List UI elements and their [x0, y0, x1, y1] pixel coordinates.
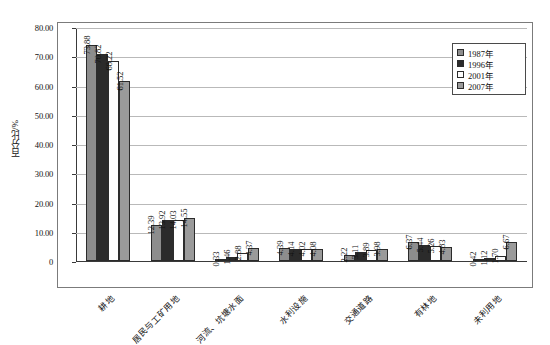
bar-value-label: 2.22 [340, 247, 349, 262]
bar-group: 2.223.113.893.98 [334, 27, 398, 261]
bar: 6.67 [506, 242, 517, 262]
bar: 61.52 [119, 81, 130, 261]
bar-value-label: 5.44 [416, 238, 425, 253]
bar-value-label: 3.98 [373, 242, 382, 257]
bar-value-label: 4.83 [438, 239, 447, 254]
bar-group-bars: 4.394.144.024.08 [269, 27, 333, 261]
bar-value-label: 1.46 [223, 249, 232, 264]
bar-group: 12.3913.9214.0314.55 [140, 27, 204, 261]
bar-group-bars: 0.331.462.884.37 [205, 27, 269, 261]
bar: 70.82 [97, 54, 108, 261]
y-axis-title-wrap: 百分比/% [8, 120, 21, 157]
y-axis-tick-label: 60.00 [35, 82, 53, 92]
x-axis-category-slot: 交通道路 [334, 288, 398, 322]
legend-swatch [457, 82, 464, 89]
x-axis-category-label: 水利设施 [276, 292, 310, 326]
x-axis-category-label: 交通道路 [340, 292, 374, 326]
y-axis-title: 百分比/% [8, 120, 21, 157]
bar-value-label: 0.42 [469, 252, 478, 267]
legend-swatch [457, 49, 464, 56]
bar: 73.88 [86, 45, 97, 261]
legend-swatch [457, 71, 464, 78]
y-axis-tick [72, 262, 76, 263]
bar-value-label: 68.22 [105, 52, 114, 71]
bar-value-label: 61.52 [116, 72, 125, 91]
bar-group: 73.8870.8268.2261.52 [76, 27, 140, 261]
x-axis-category-label: 未利用地 [469, 292, 503, 326]
bar-value-label: 3.89 [362, 242, 371, 257]
legend-label: 2007年 [468, 80, 494, 92]
bar-value-label: 6.37 [405, 235, 414, 250]
x-axis-category-slot: 水利设施 [269, 288, 333, 322]
bar-value-label: 13.92 [158, 211, 167, 230]
bar-group-bars: 2.223.113.893.98 [334, 27, 398, 261]
x-axis-category-slot: 耕地 [76, 288, 140, 322]
bar-value-label: 4.02 [298, 242, 307, 257]
bar: 4.08 [312, 249, 323, 261]
x-axis-line [76, 261, 527, 262]
bar-value-label: 6.67 [502, 234, 511, 249]
bar-value-label: 2.88 [234, 245, 243, 260]
bar-group: 0.331.462.884.37 [205, 27, 269, 261]
x-axis-category-slot: 河流、坑塘水面 [205, 288, 269, 322]
bar-group: 4.394.144.024.08 [269, 27, 333, 261]
y-axis-tick-label: 0 [49, 257, 53, 267]
bar: 14.55 [184, 218, 195, 261]
bar-value-label: 12.39 [147, 215, 156, 234]
bar-value-label: 14.03 [169, 210, 178, 229]
legend-swatch [457, 60, 464, 67]
bar-value-label: 1.70 [491, 249, 500, 264]
x-axis-category-slot: 有林地 [398, 288, 462, 322]
bar: 4.83 [441, 247, 452, 261]
legend-item: 1987年 [457, 47, 521, 58]
bar: 3.98 [377, 249, 388, 261]
y-axis-tick-label: 70.00 [35, 52, 53, 62]
bar: 68.22 [108, 61, 119, 261]
bar-value-label: 4.37 [245, 241, 254, 256]
y-axis-tick-label: 50.00 [35, 111, 53, 121]
bar: 1.70 [495, 256, 506, 261]
bar: 12.39 [151, 225, 162, 261]
bar-group-bars: 12.3913.9214.0314.55 [140, 27, 204, 261]
x-axis-category-slot: 未利用地 [463, 288, 527, 322]
bar-value-label: 4.14 [287, 241, 296, 256]
bar-value-label: 14.55 [180, 209, 189, 228]
legend: 1987年1996年2001年2007年 [452, 43, 526, 95]
y-axis-tick-label: 80.00 [35, 23, 53, 33]
bar-value-label: 3.11 [351, 245, 360, 260]
bar-value-label: 1.12 [480, 250, 489, 265]
bar: 4.37 [248, 248, 259, 261]
x-axis-category-labels: 耕地居民与工矿用地河流、坑塘水面水利设施交通道路有林地未利用地 [57, 288, 533, 322]
bar-group-bars: 73.8870.8268.2261.52 [76, 27, 140, 261]
bar-value-label: 5.26 [427, 238, 436, 253]
legend-item: 1996年 [457, 58, 521, 69]
y-axis-tick-label: 10.00 [35, 228, 53, 238]
legend-item: 2007年 [457, 80, 521, 91]
y-axis-tick-label: 30.00 [35, 169, 53, 179]
x-axis-category-label: 耕地 [95, 292, 116, 313]
y-axis-tick-label: 40.00 [35, 140, 53, 150]
bar-value-label: 4.39 [276, 241, 285, 256]
bar-value-label: 70.82 [94, 44, 103, 63]
legend-item: 2001年 [457, 69, 521, 80]
y-axis-tick-label: 20.00 [35, 199, 53, 209]
bar-value-label: 4.08 [309, 242, 318, 257]
x-axis-category-slot: 居民与工矿用地 [140, 288, 204, 322]
x-axis-category-label: 有林地 [411, 292, 439, 320]
bar-value-label: 0.33 [212, 252, 221, 267]
bar-value-label: 73.88 [83, 35, 92, 54]
